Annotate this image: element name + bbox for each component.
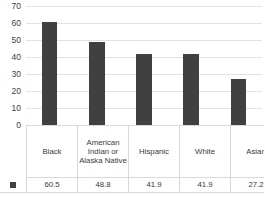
category-label-cell: American Indian or Alaska Native (78, 126, 129, 178)
category-label-cell: Black (27, 126, 78, 178)
y-tick-label: 60 (12, 19, 21, 28)
value-row: 60.548.841.941.927.2 (0, 178, 264, 193)
value-cell: 27.2 (231, 178, 265, 193)
category-label-cell: Hispanic (129, 126, 180, 178)
category-row: BlackAmerican Indian or Alaska NativeHis… (0, 126, 264, 178)
bar-slot (168, 6, 215, 125)
y-tick-label: 30 (12, 70, 21, 79)
y-tick-label: 10 (12, 104, 21, 113)
bar[interactable] (136, 54, 152, 125)
legend-cell-empty (0, 126, 27, 178)
legend-swatch-icon (10, 182, 16, 188)
legend-cell (0, 178, 27, 193)
bar[interactable] (42, 22, 58, 125)
bars-layer (26, 6, 262, 125)
bar-slot (73, 6, 120, 125)
category-label-cell: White (180, 126, 231, 178)
y-tick-label: 50 (12, 36, 21, 45)
bar-chart: 706050403020100 BlackAmerican Indian or … (0, 0, 264, 198)
bar[interactable] (231, 79, 247, 125)
bar-slot (215, 6, 262, 125)
bar[interactable] (183, 54, 199, 125)
value-cell: 41.9 (180, 178, 231, 193)
y-tick-label: 70 (12, 2, 21, 11)
plot-area: 706050403020100 (0, 6, 264, 125)
value-cell: 41.9 (129, 178, 180, 193)
bar[interactable] (89, 42, 105, 125)
category-label-cell: Asian (231, 126, 265, 178)
bar-slot (26, 6, 73, 125)
value-cell: 60.5 (27, 178, 78, 193)
value-cell: 48.8 (78, 178, 129, 193)
y-tick-label: 40 (12, 53, 21, 62)
y-axis: 706050403020100 (0, 6, 24, 125)
data-table: BlackAmerican Indian or Alaska NativeHis… (0, 125, 264, 193)
y-tick-label: 20 (12, 87, 21, 96)
bar-slot (120, 6, 167, 125)
